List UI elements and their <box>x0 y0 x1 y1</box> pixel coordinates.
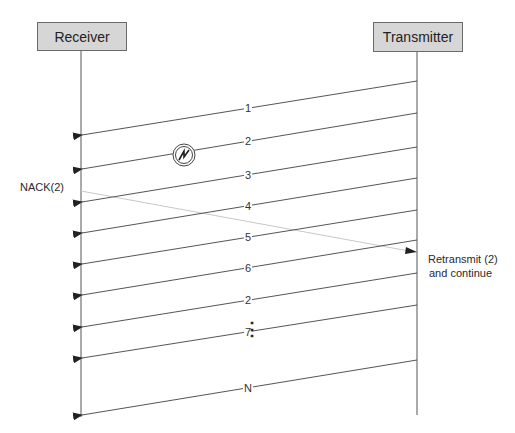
retransmit-note-line2: and continue <box>428 266 498 280</box>
ellipsis-dots: ⋮ <box>243 320 261 338</box>
receiver-box: Receiver <box>37 22 127 51</box>
message-label: N <box>243 382 253 394</box>
retransmit-note: Retransmit (2) and continue <box>428 252 498 280</box>
message-label: 2 <box>244 135 252 147</box>
message-label: 6 <box>244 262 252 274</box>
message-label: 4 <box>244 200 252 212</box>
nack-arrowhead-icon <box>405 247 417 254</box>
sequence-diagram-canvas <box>0 0 515 433</box>
transmitter-box: Transmitter <box>373 22 463 52</box>
lightning-error-icon <box>173 144 195 166</box>
transmitter-label: Transmitter <box>383 29 453 45</box>
message-label: 3 <box>244 169 252 181</box>
retransmit-note-line1: Retransmit (2) <box>428 252 498 266</box>
message-arrows <box>82 81 417 415</box>
message-label: 5 <box>244 231 252 243</box>
receiver-label: Receiver <box>54 29 109 45</box>
nack-label: NACK(2) <box>20 180 64 194</box>
message-label: 1 <box>244 102 252 114</box>
message-label: 2 <box>244 294 252 306</box>
